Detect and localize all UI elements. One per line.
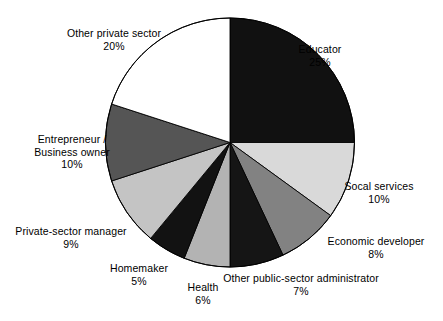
slice-label-entrepreneur-name2: Business owner	[34, 146, 110, 159]
slice-label-public-sector-admin-name: Other public-sector administrator	[223, 272, 379, 285]
slice-label-private-sector-manager-value: 9%	[15, 238, 126, 251]
slice-label-entrepreneur-value: 10%	[34, 158, 110, 171]
slice-label-health-name: Health	[188, 281, 219, 294]
slice-label-entrepreneur-name: Entrepreneur /	[34, 133, 110, 146]
pie-slice[interactable]	[230, 18, 355, 143]
slice-label-social-services: Socal services 10%	[344, 180, 413, 205]
pie-chart-figure: Educator 25% Socal services 10% Economic…	[0, 0, 443, 321]
slice-label-educator-value: 25%	[299, 56, 342, 69]
slice-label-other-private-sector-name: Other private sector	[67, 27, 161, 40]
slice-label-social-services-value: 10%	[344, 193, 413, 206]
slice-label-social-services-name: Socal services	[344, 180, 413, 193]
slice-label-other-private-sector: Other private sector 20%	[67, 27, 161, 52]
slice-label-economic-developer-name: Economic developer	[328, 235, 425, 248]
slice-label-homemaker: Homemaker 5%	[110, 262, 168, 287]
slice-label-educator-name: Educator	[299, 43, 342, 56]
slice-label-private-sector-manager-name: Private-sector manager	[15, 225, 126, 238]
slice-label-entrepreneur: Entrepreneur / Business owner 10%	[34, 133, 110, 171]
slice-label-homemaker-value: 5%	[110, 275, 168, 288]
slice-label-health-value: 6%	[188, 294, 219, 307]
slice-label-economic-developer-value: 8%	[328, 248, 425, 261]
slice-label-economic-developer: Economic developer 8%	[328, 235, 425, 260]
slice-label-private-sector-manager: Private-sector manager 9%	[15, 225, 126, 250]
slice-label-health: Health 6%	[188, 281, 219, 306]
slice-label-public-sector-admin-value: 7%	[223, 285, 379, 298]
slice-label-public-sector-admin: Other public-sector administrator 7%	[223, 272, 379, 297]
slice-label-educator: Educator 25%	[299, 43, 342, 68]
slice-label-homemaker-name: Homemaker	[110, 262, 168, 275]
slice-label-other-private-sector-value: 20%	[67, 40, 161, 53]
